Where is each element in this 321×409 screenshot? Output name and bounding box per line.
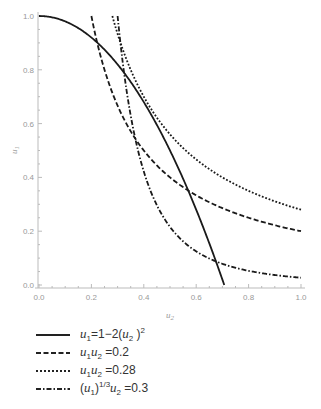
x-tick-label: 0.2 (86, 293, 98, 302)
series-dotted (112, 16, 301, 210)
series-dashdot (118, 16, 301, 278)
x-tick-label: 0.8 (243, 293, 255, 302)
y-tick-label: 0.4 (23, 173, 35, 182)
legend-item-parabola: u1=1−2(u2 )2 (36, 326, 148, 344)
y-tick-label: 0.8 (23, 66, 35, 75)
y-tick-label: 0.0 (23, 281, 35, 290)
x-tick-label: 0.6 (191, 293, 203, 302)
y-tick-label: 0.2 (23, 227, 35, 236)
y-tick-label: 0.6 (23, 120, 35, 129)
x-axis-label: u2 (166, 310, 175, 322)
curves (39, 16, 301, 285)
dashed-line-swatch-icon (36, 348, 70, 358)
legend-item-product-02: u1u2 =0.2 (36, 344, 148, 362)
legend-label: u1=1−2(u2 )2 (80, 326, 145, 343)
series-solid (39, 16, 224, 285)
legend-label: u1u2 =0.2 (80, 344, 129, 361)
legend-label: (u1)1/3u2 =0.3 (80, 380, 148, 397)
dashdot-line-swatch-icon (36, 384, 70, 394)
x-tick-label: 0.4 (138, 293, 150, 302)
x-tick-label: 1.0 (295, 293, 307, 302)
y-tick-label: 1.0 (23, 12, 35, 21)
y-axis-label: u1 (9, 146, 21, 154)
legend-label: u1u2 =0.28 (80, 362, 136, 379)
legend-item-cuberoot-03: (u1)1/3u2 =0.3 (36, 380, 148, 398)
legend-item-product-028: u1u2 =0.28 (36, 362, 148, 380)
x-tick-label: 0.0 (33, 293, 45, 302)
solid-line-swatch-icon (36, 330, 70, 340)
legend: u1=1−2(u2 )2 u1u2 =0.2 u1u2 =0.28 (u1)1/… (36, 326, 148, 398)
axes: 0.00.20.40.60.81.00.00.20.40.60.81.0 (23, 12, 307, 302)
dotted-line-swatch-icon (36, 366, 70, 376)
